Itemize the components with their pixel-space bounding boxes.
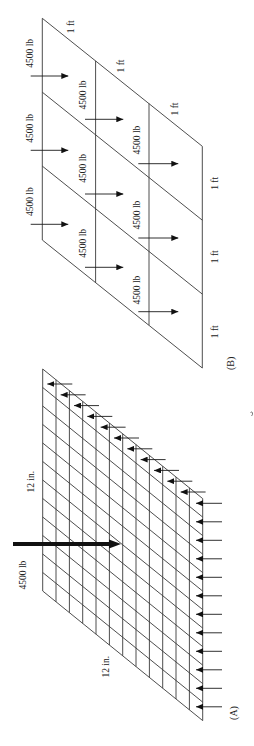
dimension-label: 12 in. <box>101 656 111 678</box>
load-label: 4500 lb <box>132 200 142 229</box>
panel-b-dimension-labels: 1 ft 1 ft 1 ft 1 ft 1 ft 1 ft <box>66 20 220 338</box>
applied-load-label: 4500 lb <box>18 560 28 589</box>
dimension-label: 1 ft <box>210 325 220 338</box>
load-label: 4500 lb <box>25 39 35 68</box>
load-label: 4500 lb <box>78 80 88 109</box>
panel-b: 4500 lb 4500 lb 4500 lb 4500 lb 4500 lb … <box>25 18 237 370</box>
load-diagram: 4500 lb 4500 lb 4500 lb 4500 lb 4500 lb … <box>0 0 254 746</box>
load-label: 4500 lb <box>132 125 142 154</box>
panel-b-label: (B) <box>225 357 237 370</box>
load-label: 4500 lb <box>78 154 88 183</box>
panel-b-load-arrows <box>31 76 179 312</box>
dimension-label: 1 ft <box>66 20 76 33</box>
panel-a: 4500 lb 12 in. 12 in. (A) <box>13 369 240 721</box>
figure-canvas: 4500 lb 4500 lb 4500 lb 4500 lb 4500 lb … <box>0 0 254 746</box>
panel-a-top-edge-arrows <box>47 384 205 492</box>
dimension-label: 1 ft <box>210 250 220 263</box>
load-label: 4500 lb <box>25 114 35 143</box>
applied-load-arrow-icon <box>13 540 121 549</box>
dimension-label: 1 ft <box>116 59 126 72</box>
panel-a-label: (A) <box>228 706 240 720</box>
dimension-label: 1 ft <box>170 102 180 115</box>
dimension-label: 1 ft <box>210 176 220 189</box>
load-label: 4500 lb <box>25 187 35 216</box>
dimension-label: 12 in. <box>26 471 36 493</box>
load-label: 4500 lb <box>132 275 142 304</box>
scan-mark <box>251 412 253 416</box>
load-label: 4500 lb <box>78 229 88 258</box>
